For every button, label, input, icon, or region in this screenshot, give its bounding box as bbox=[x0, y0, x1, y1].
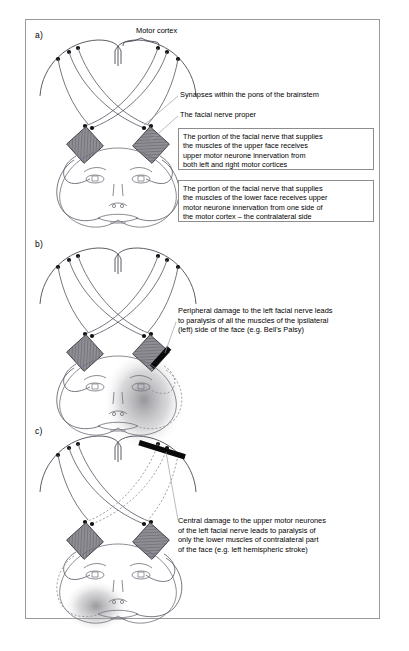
figure-frame: a) bbox=[25, 19, 380, 619]
label-synapses-pons: Synapses within the pons of the brainste… bbox=[180, 90, 319, 100]
label-peripheral-damage: Peripheral damage to the left facial ner… bbox=[178, 306, 332, 335]
textbox-lower-face-innervation: The portion of the facial nerve that sup… bbox=[178, 180, 374, 222]
label-facial-nerve-proper: The facial nerve proper bbox=[180, 110, 256, 120]
textbox-upper-face-innervation: The portion of the facial nerve that sup… bbox=[178, 128, 374, 170]
label-central-damage: Central damage to the upper motor neuron… bbox=[178, 516, 326, 554]
